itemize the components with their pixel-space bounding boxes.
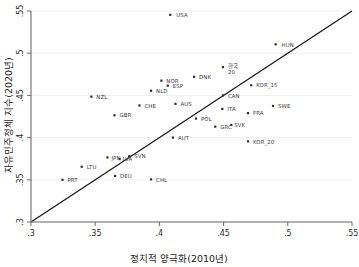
scatter-point — [150, 90, 152, 92]
scatter-point-label: NZL — [96, 94, 107, 100]
scatter-point-label: KOR_15 — [256, 82, 277, 89]
x-tick-label: .45 — [217, 229, 230, 238]
scatter-point — [106, 156, 108, 158]
scatter-point — [160, 80, 162, 82]
scatter-point — [174, 103, 176, 105]
x-tick-label: .55 — [346, 229, 359, 238]
scatter-point-label: SVK — [234, 122, 245, 128]
scatter-point — [247, 112, 249, 114]
scatter-point — [272, 105, 274, 107]
scatter-point-label: USA — [176, 12, 188, 18]
scatter-point — [230, 124, 232, 126]
scatter-point — [114, 175, 116, 177]
scatter-point-label: NLD — [156, 88, 168, 94]
scatter-point-label: DNK — [199, 74, 211, 80]
scatter-point — [90, 96, 92, 98]
scatter-point — [247, 140, 249, 142]
scatter-plot-figure: USAHUN한국20DNKNORESPKOR_15NLDCANNZLAUSCHE… — [0, 0, 359, 267]
scatter-point-label-line2: 20 — [228, 69, 235, 75]
scatter-point-label: ITA — [227, 106, 236, 112]
scatter-point — [169, 14, 171, 16]
scatter-point — [118, 158, 120, 160]
y-tick-label: .4 — [16, 134, 25, 142]
scatter-point-label: CAN — [228, 93, 240, 99]
scatter-point — [193, 76, 195, 78]
scatter-point-label: HUN — [282, 42, 294, 48]
x-tick-label: .4 — [156, 229, 164, 238]
x-tick-label: .5 — [284, 229, 292, 238]
scatter-point — [222, 66, 224, 68]
scatter-point-label: SWE — [278, 103, 291, 109]
scatter-point — [250, 84, 252, 86]
scatter-point — [138, 104, 140, 106]
scatter-point — [172, 137, 174, 139]
scatter-point-label: PRT — [67, 177, 78, 183]
scatter-point-label: LVA — [123, 156, 133, 162]
scatter-point — [81, 166, 83, 168]
scatter-point — [222, 94, 224, 96]
scatter-point-label: LTU — [87, 164, 97, 170]
x-tick-label: .3 — [27, 229, 35, 238]
scatter-point — [113, 114, 115, 116]
chart-background — [0, 0, 359, 267]
scatter-point-label: GBR — [119, 112, 131, 118]
scatter-point-label: SVN — [134, 153, 145, 159]
y-axis-title: 자유민주정체 지수(2020년) — [3, 57, 14, 173]
y-tick-label: .5 — [16, 49, 25, 57]
scatter-point-label: POL — [201, 116, 212, 122]
scatter-point-label: FRA — [253, 110, 264, 116]
scatter-point — [150, 178, 152, 180]
scatter-point — [275, 43, 277, 45]
scatter-point — [221, 108, 223, 110]
scatter-point-label: AUT — [178, 135, 190, 141]
scatter-point-label: CHE — [144, 103, 156, 109]
scatter-point — [195, 118, 197, 120]
scatter-point-label: ESP — [173, 83, 184, 89]
scatter-point-label: AUS — [180, 101, 192, 107]
scatter-point — [167, 85, 169, 87]
y-tick-label: .35 — [16, 173, 25, 186]
x-axis-title: 정치적 양극화(2010년) — [130, 253, 228, 264]
scatter-point — [214, 126, 216, 128]
scatter-point-label: CHL — [156, 177, 167, 183]
scatter-point — [61, 179, 63, 181]
y-tick-label: .55 — [16, 5, 25, 18]
y-tick-label: .3 — [16, 218, 25, 226]
scatter-point-label: DEU — [120, 173, 132, 179]
y-tick-label: .45 — [16, 89, 25, 102]
scatter-point-label: KOR_20 — [253, 139, 275, 146]
chart-canvas: USAHUN한국20DNKNORESPKOR_15NLDCANNZLAUSCHE… — [0, 0, 359, 267]
x-tick-label: .35 — [89, 229, 102, 238]
